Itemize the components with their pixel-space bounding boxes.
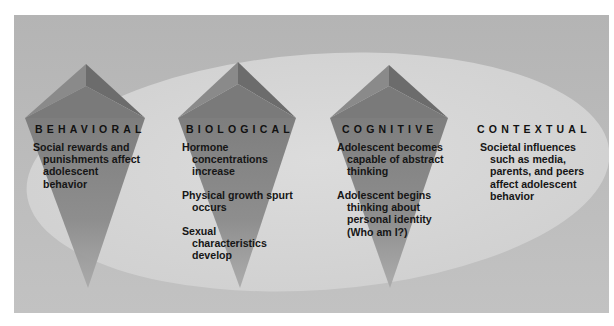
biological-item-1: Hormone concentrations increase [182, 141, 268, 178]
header-biological: BIOLOGICAL [186, 123, 294, 135]
item-text: personal identity [337, 213, 432, 225]
header-contextual: CONTEXTUAL [477, 123, 591, 135]
item-text: Adolescent begins [337, 189, 432, 201]
contextual-item-1: Societal influences such as media, paren… [480, 141, 584, 202]
item-text: Societal influences [480, 141, 584, 153]
item-text: Social rewards and [33, 141, 140, 153]
item-text: parents, and peers [480, 165, 584, 177]
item-text: adolescent [33, 165, 140, 177]
item-text: occurs [182, 201, 293, 213]
header-behavioral: BEHAVIORAL [35, 123, 146, 135]
header-cognitive: COGNITIVE [342, 123, 438, 135]
item-text: increase [182, 165, 268, 177]
biological-item-2: Physical growth spurt occurs [182, 189, 293, 213]
item-text: behavior [33, 178, 140, 190]
cognitive-item-1: Adolescent becomes capable of abstract t… [337, 141, 444, 178]
item-text: Sexual [182, 225, 267, 237]
item-text: behavior [480, 190, 584, 202]
item-text: capable of abstract [337, 153, 444, 165]
item-text: concentrations [182, 153, 268, 165]
behavioral-item-1: Social rewards and punishments affect ad… [33, 141, 140, 190]
item-text: thinking about [337, 201, 432, 213]
item-text: Physical growth spurt [182, 189, 293, 201]
biological-item-3: Sexual characteristics develop [182, 225, 267, 262]
item-text: punishments affect [33, 153, 140, 165]
item-text: Hormone [182, 141, 268, 153]
item-text: Adolescent becomes [337, 141, 444, 153]
item-text: characteristics [182, 237, 267, 249]
item-text: (Who am I?) [337, 226, 432, 238]
cognitive-item-2: Adolescent begins thinking about persona… [337, 189, 432, 238]
item-text: thinking [337, 165, 444, 177]
item-text: develop [182, 249, 267, 261]
item-text: affect adolescent [480, 178, 584, 190]
diagram-panel: BEHAVIORAL Social rewards and punishment… [14, 15, 609, 313]
item-text: such as media, [480, 153, 584, 165]
